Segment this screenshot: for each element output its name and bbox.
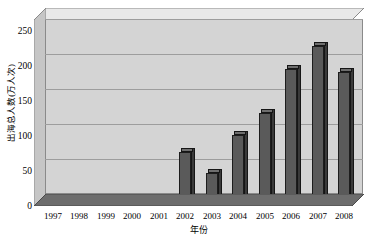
x-axis-tick-label: 2008 bbox=[328, 210, 360, 222]
bar bbox=[312, 46, 324, 206]
bar-side-face bbox=[350, 68, 354, 202]
bar-top-face bbox=[340, 68, 352, 72]
y-axis-tick-labels: 050100150200250 bbox=[0, 0, 32, 238]
bar-chart: 出海总人数(万人次) 050100150200250 1997199819992… bbox=[0, 0, 366, 238]
y-axis-tick-label: 50 bbox=[6, 166, 32, 176]
bar bbox=[259, 113, 271, 206]
bar-top-face bbox=[234, 131, 246, 135]
bar-top-face bbox=[208, 169, 220, 173]
plot-floor bbox=[34, 194, 364, 206]
bar-side-face bbox=[324, 42, 328, 202]
y-axis-tick-label: 200 bbox=[6, 61, 32, 71]
bar-series bbox=[34, 8, 364, 208]
bar-front-face bbox=[285, 69, 297, 206]
x-axis-title: 年份 bbox=[34, 224, 364, 236]
bar-top-face bbox=[287, 65, 299, 69]
y-axis-tick-label: 150 bbox=[6, 96, 32, 106]
bar-front-face bbox=[312, 46, 324, 206]
bar-front-face bbox=[259, 113, 271, 206]
y-axis-tick-label: 0 bbox=[6, 201, 32, 211]
bar-top-face bbox=[314, 42, 326, 46]
bar-side-face bbox=[297, 65, 301, 202]
bar-side-face bbox=[244, 131, 248, 202]
bar bbox=[338, 72, 350, 206]
x-axis-tick-labels: 1997199819992000200120022003200420052006… bbox=[34, 210, 364, 224]
bar bbox=[285, 69, 297, 206]
bar-side-face bbox=[271, 109, 275, 202]
bar-front-face bbox=[338, 72, 350, 206]
bar-top-face bbox=[261, 109, 273, 113]
y-axis-tick-label: 100 bbox=[6, 131, 32, 141]
bar-top-face bbox=[181, 148, 193, 152]
plot-area bbox=[34, 8, 364, 208]
y-axis-tick-label: 250 bbox=[6, 26, 32, 36]
